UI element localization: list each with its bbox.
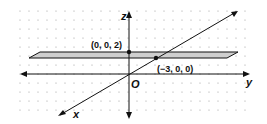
point-label-0-0-2: (0, 0, 2)	[91, 40, 122, 50]
point-label-neg3-0-0: (−3, 0, 0)	[157, 64, 193, 74]
plane	[29, 52, 238, 58]
dot-grid	[16, 10, 252, 118]
coordinate-diagram: (0, 0, 2) (−3, 0, 0) z y x O	[0, 0, 267, 124]
origin-label: O	[131, 78, 140, 90]
y-axis-label: y	[245, 76, 253, 88]
x-axis-label: x	[72, 108, 80, 120]
point-neg3-0-0	[154, 56, 158, 60]
point-0-0-2	[127, 50, 131, 54]
z-axis-label: z	[120, 10, 127, 22]
